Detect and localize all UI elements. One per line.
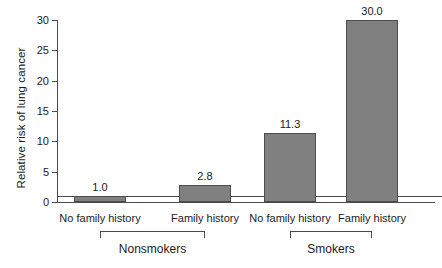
group-bracket (100, 231, 205, 238)
y-tick-label: 30 (37, 14, 49, 26)
y-tick-mark (52, 141, 57, 142)
y-tick-label: 0 (43, 196, 49, 208)
y-tick-mark (52, 81, 57, 82)
x-category-label: Family history (171, 212, 239, 224)
bar (179, 185, 231, 202)
bar-value-label: 30.0 (361, 5, 382, 17)
group-label: Nonsmokers (119, 242, 186, 256)
bar-value-label: 2.8 (197, 170, 212, 182)
y-axis-title: Relative risk of lung cancer (15, 23, 27, 213)
y-tick-mark (52, 111, 57, 112)
bar (346, 20, 398, 202)
group-bracket (290, 231, 372, 238)
x-category-label: No family history (59, 212, 140, 224)
y-tick-mark (52, 20, 57, 21)
bar (264, 133, 316, 202)
y-tick-label: 20 (37, 75, 49, 87)
y-tick-mark (52, 50, 57, 51)
y-tick-label: 10 (37, 135, 49, 147)
bar-value-label: 1.0 (92, 181, 107, 193)
y-axis-spine (57, 20, 58, 202)
y-tick-label: 5 (43, 166, 49, 178)
x-category-label: No family history (249, 212, 330, 224)
plot-area: 051015202530 1.02.811.330.0 (57, 20, 435, 202)
bar-chart-figure: Relative risk of lung cancer 05101520253… (0, 0, 442, 268)
bar-value-label: 11.3 (280, 118, 301, 130)
group-label: Smokers (307, 242, 354, 256)
x-axis-baseline (57, 202, 435, 203)
x-category-label: Family history (338, 212, 406, 224)
bar (74, 196, 126, 202)
y-tick-label: 25 (37, 44, 49, 56)
y-tick-mark (52, 172, 57, 173)
y-tick-label: 15 (37, 105, 49, 117)
